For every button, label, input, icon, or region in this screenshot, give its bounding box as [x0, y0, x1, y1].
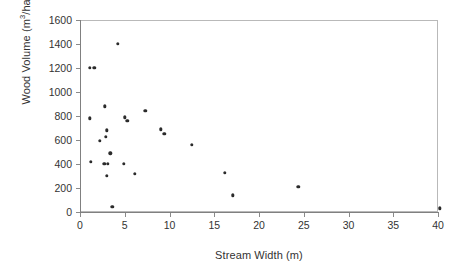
- y-axis-tick: [76, 92, 80, 93]
- x-axis-tick: [214, 213, 215, 217]
- x-axis-tick: [438, 213, 439, 217]
- x-axis-tick: [170, 213, 171, 217]
- x-axis-tick-label: 5: [110, 220, 140, 230]
- x-axis-tick: [125, 213, 126, 217]
- x-axis-tick: [304, 213, 305, 217]
- y-axis-tick: [76, 68, 80, 69]
- x-axis-tick-label: 25: [289, 220, 319, 230]
- y-axis-tick-label: 200: [30, 183, 72, 193]
- y-axis-tick: [76, 140, 80, 141]
- y-axis-title-superscript: 3: [18, 15, 27, 19]
- x-axis-tick: [80, 213, 81, 217]
- y-axis-tick-label: 1600: [30, 15, 72, 25]
- x-axis-title: Stream Width (m): [80, 249, 438, 261]
- y-axis-tick-label: 800: [30, 111, 72, 121]
- y-axis-tick: [76, 188, 80, 189]
- x-axis-tick-label: 40: [423, 220, 453, 230]
- y-axis-tick-label: 1000: [30, 87, 72, 97]
- x-axis-tick-label: 0: [65, 220, 95, 230]
- y-axis-tick-label: 400: [30, 159, 72, 169]
- y-axis-tick-label: 1200: [30, 63, 72, 73]
- y-axis-tick-label: 1400: [30, 39, 72, 49]
- x-axis-tick: [259, 213, 260, 217]
- plot-area: [80, 20, 438, 212]
- x-axis-tick: [349, 213, 350, 217]
- y-axis-tick: [76, 164, 80, 165]
- x-axis-tick-label: 20: [244, 220, 274, 230]
- scatter-chart-figure: Wood Volume (m3/ha) Stream Width (m) 020…: [0, 0, 460, 275]
- x-axis-tick-label: 35: [378, 220, 408, 230]
- x-axis-tick: [393, 213, 394, 217]
- y-axis-tick-label: 600: [30, 135, 72, 145]
- y-axis-title-tail: /ha): [20, 0, 32, 15]
- y-axis-tick: [76, 116, 80, 117]
- x-axis-tick-label: 15: [199, 220, 229, 230]
- y-axis-tick: [76, 20, 80, 21]
- x-axis-tick-label: 30: [334, 220, 364, 230]
- scatter-point: [438, 207, 441, 210]
- y-axis-tick: [76, 44, 80, 45]
- y-axis-tick-label: 0: [30, 207, 72, 217]
- x-axis-tick-label: 10: [155, 220, 185, 230]
- y-axis-line: [80, 20, 81, 212]
